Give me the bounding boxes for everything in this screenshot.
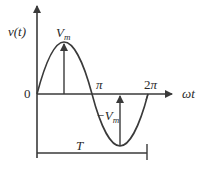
tick-pi-label: π [96, 77, 103, 92]
trough-label: −Vm [96, 108, 120, 125]
origin-label: 0 [24, 86, 31, 101]
peak-label: Vm [56, 25, 71, 42]
tick-2pi-label: 2π [144, 77, 158, 92]
sine-wave-diagram: v(t) 0 Vm π 2π ωt −Vm T [0, 0, 206, 171]
x-axis-label: ωt [182, 86, 195, 101]
period-label: T [76, 138, 84, 153]
y-axis-label: v(t) [8, 24, 26, 39]
